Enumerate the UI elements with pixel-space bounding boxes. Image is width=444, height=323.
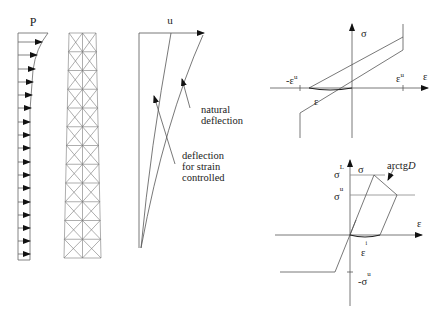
top-lower-branch: [300, 24, 403, 138]
residual-eps-base: ε: [361, 247, 365, 258]
deflection-diagram: [139, 33, 204, 248]
neg-sigma-u-base: -σ: [358, 276, 367, 287]
bottom-residual-label: εi: [361, 244, 367, 258]
sigma-L-sup: L: [340, 163, 344, 171]
load-envelope: [30, 33, 48, 260]
top-neg-eu-label: -εu: [286, 72, 297, 86]
arctg-D-label: arctgD: [387, 160, 416, 171]
top-epsilon-axis-label: ε: [423, 71, 427, 82]
strain-line-3: controlled: [182, 172, 225, 183]
strain-line-2: for strain: [182, 161, 225, 172]
neg-eu-base: -ε: [286, 75, 294, 86]
top-sigma-label: σ: [361, 28, 367, 39]
bottom-sigma-label: σ: [358, 164, 364, 175]
u-label: u: [167, 14, 173, 26]
natural-pointer: [182, 79, 190, 108]
strain-pointer: [154, 96, 175, 164]
load-label: P: [30, 15, 37, 29]
neg-eu-sup: u: [294, 73, 298, 81]
pos-eu-sup: u: [400, 71, 404, 79]
bottom-stress-strain-chart: [275, 160, 422, 306]
top-upper-branch: [309, 37, 403, 88]
arctg-D: D: [408, 160, 416, 171]
top-pos-eu-label: εu: [396, 70, 404, 84]
bottom-epsilon-axis-label: ε: [417, 218, 421, 229]
sigma-L-label: σL: [334, 166, 344, 180]
sigma-u-label: σu: [334, 188, 343, 202]
sigma-u-sup: u: [340, 185, 344, 193]
load-diagram: [18, 33, 48, 260]
neg-sigma-u-label: -σu: [358, 273, 371, 287]
sigma-L-base: σ: [334, 169, 340, 180]
top-residual-label: ε: [314, 96, 318, 107]
natural-line-1: natural: [201, 104, 243, 115]
natural-deflection-label: natural deflection: [201, 104, 243, 126]
residual-eps-sup: i: [365, 240, 367, 246]
strain-controlled-label: deflection for strain controlled: [182, 150, 225, 183]
truss-frame: [64, 33, 101, 258]
arctg-text: arctg: [387, 160, 408, 171]
strain-line-1: deflection: [182, 150, 225, 161]
strain-controlled-curve: [141, 33, 171, 248]
natural-line-2: deflection: [201, 115, 243, 126]
natural-deflection-curve: [141, 35, 203, 248]
neg-sigma-u-sup: u: [367, 270, 371, 278]
sigma-u-base: σ: [334, 191, 340, 202]
